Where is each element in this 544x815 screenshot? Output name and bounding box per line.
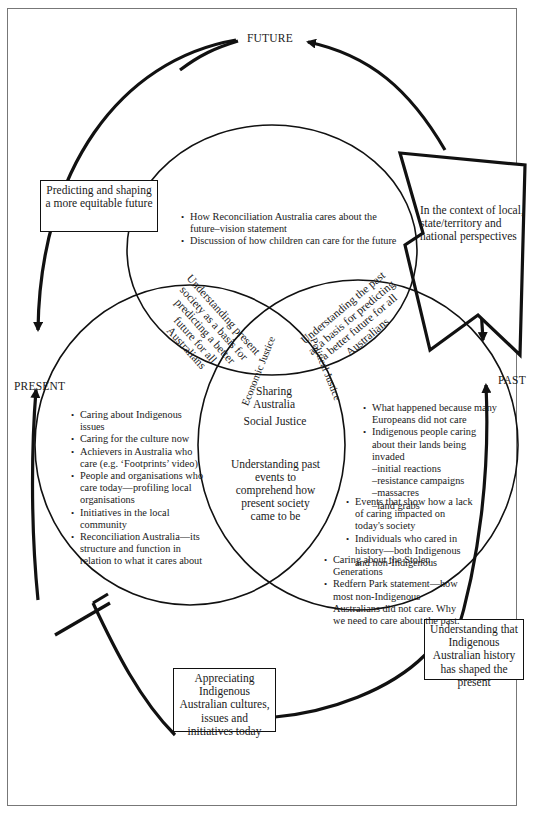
- list-item: Redfern Park statement—how most non-Indi…: [323, 578, 463, 627]
- list-item: Caring about Indigenous issues: [70, 409, 205, 433]
- box-context: In the context of local, state/territory…: [420, 204, 535, 243]
- box-understanding-history: Understanding that Indigenous Australian…: [424, 619, 524, 680]
- arrow-past-to-future: [308, 42, 445, 150]
- label-future: FUTURE: [247, 32, 293, 45]
- list-item: Caring about the Stolen Generations: [323, 554, 463, 578]
- bottom-cycle-arc: [93, 603, 175, 735]
- list-item: What happened because many Europeans did…: [362, 402, 497, 426]
- list-item: Caring for the culture now: [70, 433, 205, 445]
- list-item: Reconciliation Australia—its structure a…: [70, 531, 205, 568]
- list-item: Initiatives in the local community: [70, 507, 205, 531]
- label-past: PAST: [498, 374, 526, 387]
- list-item: Events that show how a lack of caring im…: [345, 496, 475, 533]
- list-item: People and organisations who care today—…: [70, 470, 205, 507]
- context-pointer-shape: [400, 153, 525, 355]
- overlap-present-past: Understanding past events to comprehend …: [228, 458, 323, 523]
- list-item: Achievers in Australia who care (e.g. ‘F…: [70, 446, 205, 470]
- box-appreciating: Appreciating Indigenous Australian cultu…: [173, 668, 276, 732]
- box-predicting-future: Predicting and shaping a more equitable …: [40, 180, 158, 232]
- center-subtitle: Social Justice: [240, 415, 310, 428]
- list-item: Discussion of how children can care for …: [180, 235, 400, 247]
- present-circle-list: Caring about Indigenous issues Caring fo…: [70, 409, 205, 568]
- past-circle-list-3: Caring about the Stolen Generations Redf…: [323, 554, 463, 627]
- list-item: How Reconciliation Australia cares about…: [180, 211, 400, 235]
- label-present: PRESENT: [14, 380, 65, 393]
- future-circle-list: How Reconciliation Australia cares about…: [180, 211, 400, 248]
